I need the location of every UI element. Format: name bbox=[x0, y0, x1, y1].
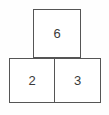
pyramid-cell-top-value: 6 bbox=[53, 27, 60, 40]
pyramid-cell-bottom-right-value: 3 bbox=[74, 74, 81, 87]
pyramid-cell-bottom-right[interactable]: 3 bbox=[54, 58, 101, 103]
pyramid-cell-bottom-left[interactable]: 2 bbox=[9, 58, 55, 103]
pyramid-cell-bottom-left-value: 2 bbox=[28, 74, 35, 87]
pyramid-bottom-row: 2 3 bbox=[9, 58, 101, 103]
number-pyramid-figure: 6 2 3 bbox=[0, 0, 109, 115]
pyramid-cell-top[interactable]: 6 bbox=[33, 9, 81, 58]
